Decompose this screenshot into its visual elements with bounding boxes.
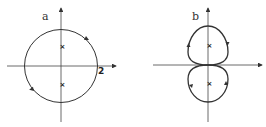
panel-label-a: a (42, 10, 49, 23)
panel-b: × × b (153, 8, 262, 122)
tick-label: 2 (98, 66, 104, 76)
pole-marker: × (60, 43, 66, 51)
diagram-canvas: × × a 2 × × b (0, 0, 266, 127)
panel-label-b: b (192, 10, 199, 23)
panel-a: × × a 2 (7, 8, 116, 122)
direction-arrow-icon (187, 43, 191, 47)
direction-arrow-icon (29, 87, 35, 93)
pole-marker: × (207, 80, 213, 88)
direction-arrow-icon (226, 42, 230, 46)
pole-marker: × (60, 81, 66, 89)
pole-marker: × (207, 42, 213, 50)
